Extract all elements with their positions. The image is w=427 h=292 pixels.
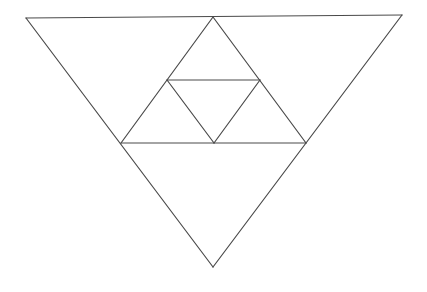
diagram-edges [26,15,402,267]
inner-left-edge [167,80,214,143]
triangle-diagram [0,0,427,292]
inner-right-edge [214,80,260,143]
outer-right-edge [213,15,402,267]
